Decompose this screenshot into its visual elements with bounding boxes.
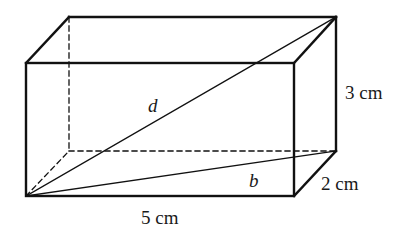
edge-top-left-depth: [26, 17, 69, 63]
label-height: 3 cm: [345, 83, 382, 102]
base-diagonal-b: [26, 151, 336, 196]
label-d: d: [148, 96, 158, 115]
edge-top-right-depth: [294, 17, 336, 63]
label-b: b: [249, 171, 259, 190]
label-depth: 2 cm: [321, 174, 358, 193]
diagonals: [26, 17, 336, 196]
space-diagonal-d: [26, 17, 336, 196]
prism-diagram: [0, 0, 399, 240]
label-length: 5 cm: [141, 208, 178, 227]
hidden-edge-bottom-left-depth: [26, 151, 69, 196]
